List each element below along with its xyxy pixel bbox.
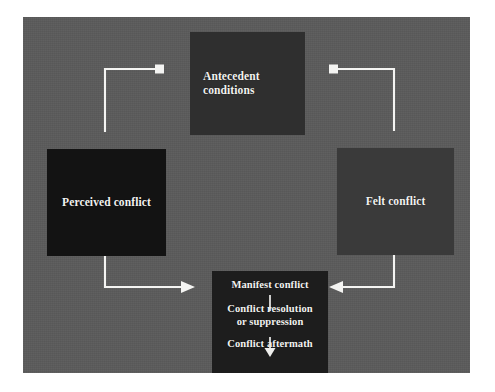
node-manifest-stage2-line2: or suppression: [212, 316, 328, 328]
node-antecedent-conditions[interactable]: Antecedent conditions: [190, 32, 305, 135]
node-perceived-conflict[interactable]: Perceived conflict: [47, 149, 166, 256]
node-perceived-label: Perceived conflict: [62, 196, 151, 210]
node-antecedent-label-line2: conditions: [203, 84, 260, 98]
arrowhead-into-manifest-left: [181, 281, 195, 293]
node-manifest-stage2-label: Conflict resolution or suppression: [212, 303, 328, 328]
connector-perceived-to-manifest: [105, 256, 181, 287]
node-felt-label: Felt conflict: [366, 195, 426, 209]
connector-antecedent-to-perceived: [105, 69, 157, 132]
connector-square-antecedent-left: [155, 65, 164, 74]
connector-felt-to-manifest: [343, 255, 394, 287]
node-manifest-conflict[interactable]: Manifest conflict Conflict resolution or…: [212, 271, 328, 373]
node-manifest-stage3-label: Conflict aftermath: [212, 338, 328, 350]
connector-square-antecedent-right: [329, 65, 338, 74]
diagram-root: Antecedent conditions Perceived conflict…: [0, 0, 495, 392]
node-manifest-stage2-line1: Conflict resolution: [212, 303, 328, 315]
node-antecedent-label-line1: Antecedent: [203, 70, 260, 84]
node-antecedent-label: Antecedent conditions: [190, 70, 260, 97]
diagram-panel: Antecedent conditions Perceived conflict…: [23, 17, 470, 373]
node-manifest-stage1-label: Manifest conflict: [212, 279, 328, 291]
arrowhead-into-manifest-right: [329, 281, 343, 293]
node-felt-conflict[interactable]: Felt conflict: [337, 148, 454, 255]
connector-antecedent-to-felt: [338, 69, 394, 131]
